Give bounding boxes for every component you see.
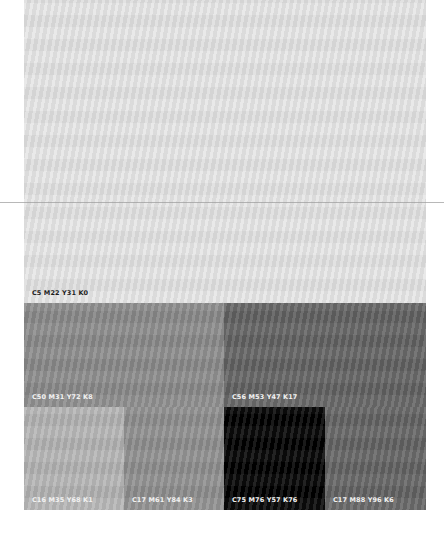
swatch-label: C75 M76 Y57 K76 xyxy=(232,496,297,504)
swatch-label: C56 M53 Y47 K17 xyxy=(232,393,297,401)
color-palette: C5 M22 Y31 K0 C50 M31 Y72 K8 C56 M53 Y47… xyxy=(24,0,426,510)
swatch-label: C50 M31 Y72 K8 xyxy=(32,393,93,401)
swatch-texture xyxy=(224,303,426,407)
swatch-texture xyxy=(24,303,224,407)
horizontal-guide-line xyxy=(0,202,444,203)
swatch-label: C17 M61 Y84 K3 xyxy=(132,496,193,504)
swatch-texture xyxy=(325,407,426,510)
swatch-label: C5 M22 Y31 K0 xyxy=(32,289,88,297)
color-swatch: C17 M61 Y84 K3 xyxy=(124,407,224,510)
color-swatch: C17 M88 Y96 K6 xyxy=(325,407,426,510)
color-swatch-large: C5 M22 Y31 K0 xyxy=(24,0,426,303)
swatch-texture xyxy=(24,0,426,303)
swatch-texture xyxy=(24,407,124,510)
color-swatch: C56 M53 Y47 K17 xyxy=(224,303,426,407)
color-swatch: C16 M35 Y68 K1 xyxy=(24,407,124,510)
swatch-label: C16 M35 Y68 K1 xyxy=(32,496,93,504)
swatch-texture xyxy=(224,407,325,510)
color-swatch: C75 M76 Y57 K76 xyxy=(224,407,325,510)
color-swatch: C50 M31 Y72 K8 xyxy=(24,303,224,407)
swatch-texture xyxy=(124,407,224,510)
swatch-label: C17 M88 Y96 K6 xyxy=(333,496,394,504)
